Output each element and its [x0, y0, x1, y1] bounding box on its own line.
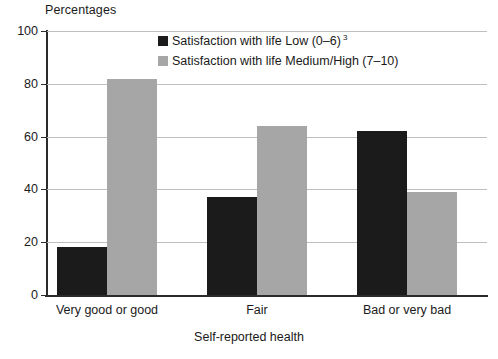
chart-legend: Satisfaction with life Low (0–6) 3Satisf… — [158, 31, 399, 71]
y-axis-tick-label: 20 — [0, 235, 38, 249]
bar-chart: Percentages 020406080100 Very good or go… — [0, 0, 498, 359]
bar — [257, 126, 307, 295]
y-axis-tick-label: 100 — [0, 24, 38, 38]
legend-swatch — [158, 56, 168, 66]
bar — [407, 192, 457, 295]
bar — [107, 79, 157, 295]
legend-footnote-marker: 3 — [341, 33, 348, 42]
x-axis-line — [45, 295, 488, 297]
y-axis-tick-label: 60 — [0, 130, 38, 144]
bar — [357, 131, 407, 295]
y-axis-tick-label: 0 — [0, 288, 38, 302]
legend-label: Satisfaction with life Low (0–6) 3 — [172, 34, 348, 48]
y-axis-tick-label: 40 — [0, 182, 38, 196]
legend-label: Satisfaction with life Medium/High (7–10… — [172, 55, 399, 68]
bar — [57, 247, 107, 295]
legend-item: Satisfaction with life Low (0–6) 3 — [158, 31, 399, 51]
x-axis-category-label: Bad or very bad — [363, 303, 451, 317]
x-axis-category-label: Very good or good — [56, 303, 158, 317]
bar — [207, 197, 257, 295]
x-axis-title: Self-reported health — [0, 330, 498, 344]
legend-swatch — [158, 36, 168, 46]
legend-item: Satisfaction with life Medium/High (7–10… — [158, 51, 399, 71]
x-axis-category-label: Fair — [246, 303, 268, 317]
y-axis-tick-label: 80 — [0, 77, 38, 91]
